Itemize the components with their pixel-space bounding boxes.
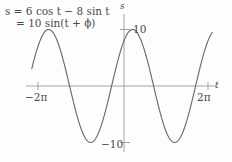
y-axis-label: s — [120, 1, 125, 11]
x-tick-label-neg-two-pi: −2π — [25, 91, 47, 103]
sinusoid-figure: s = 6 cos t − 8 sin t = 10 sin(t + ϕ) s … — [0, 0, 232, 162]
equation-annotation: s = 6 cos t − 8 sin t = 10 sin(t + ϕ) — [5, 5, 110, 29]
x-axis-label: t — [215, 80, 219, 90]
x-tick-label-two-pi: 2π — [197, 91, 211, 103]
equation-line-2: = 10 sin(t + ϕ) — [16, 17, 110, 29]
y-tick-label-neg-ten: −10 — [101, 138, 123, 150]
equation-line-1: s = 6 cos t − 8 sin t — [5, 5, 110, 17]
y-tick-label-ten: 10 — [133, 23, 146, 35]
